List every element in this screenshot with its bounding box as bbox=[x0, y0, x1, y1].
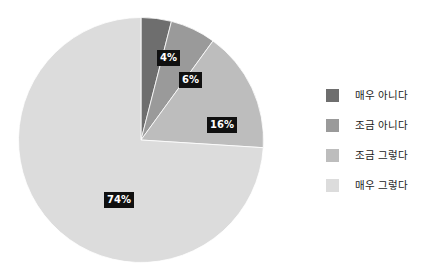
data-label-somewhat-no: 6% bbox=[179, 72, 202, 88]
legend-swatch-icon bbox=[326, 149, 339, 162]
pie-slices bbox=[19, 18, 264, 263]
chart-legend: 매우 아니다 조금 아니다 조금 그렇다 매우 그렇다 bbox=[326, 80, 431, 200]
legend-item-label: 조금 그렇다 bbox=[355, 149, 408, 162]
legend-swatch-icon bbox=[326, 89, 339, 102]
legend-item-very-yes[interactable]: 매우 그렇다 bbox=[326, 170, 431, 200]
pie-plot-area: 4% 6% 16% 74% bbox=[18, 17, 264, 263]
legend-swatch-icon bbox=[326, 119, 339, 132]
legend-item-somewhat-yes[interactable]: 조금 그렇다 bbox=[326, 140, 431, 170]
legend-item-label: 매우 아니다 bbox=[355, 89, 408, 102]
data-label-very-no: 4% bbox=[157, 50, 180, 66]
legend-item-label: 조금 아니다 bbox=[355, 119, 408, 132]
legend-swatch-icon bbox=[326, 179, 339, 192]
pie-svg bbox=[18, 17, 264, 263]
legend-item-label: 매우 그렇다 bbox=[355, 179, 408, 192]
legend-item-very-no[interactable]: 매우 아니다 bbox=[326, 80, 431, 110]
data-label-somewhat-yes: 16% bbox=[207, 117, 237, 133]
pie-chart: 4% 6% 16% 74% 매우 아니다 조금 아니다 조금 그렇다 매우 그렇… bbox=[0, 0, 431, 278]
data-label-very-yes: 74% bbox=[104, 192, 134, 208]
legend-item-somewhat-no[interactable]: 조금 아니다 bbox=[326, 110, 431, 140]
